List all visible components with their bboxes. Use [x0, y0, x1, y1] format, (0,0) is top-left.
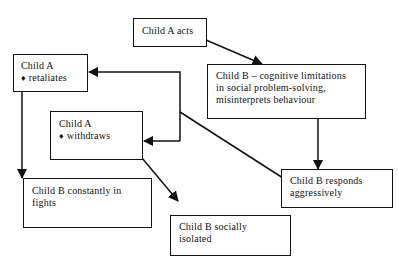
arrow-acts-to-cognitive: [206, 40, 262, 64]
node-item: retaliates: [29, 72, 67, 83]
node-child-a-acts: Child A acts: [133, 18, 207, 47]
node-child-a-withdraws: Child A ♦withdraws: [50, 111, 143, 160]
node-child-b-socially-isolated: Child B socially isolated: [170, 215, 291, 256]
node-text: Child B constantly in: [32, 185, 143, 197]
node-text: isolated: [179, 233, 282, 245]
node-text: Child A acts: [142, 25, 198, 37]
node-title: Child A: [21, 60, 80, 72]
node-text: in social problem-solving,: [216, 82, 357, 94]
node-text: Child B socially: [179, 221, 282, 233]
connector-aggressive-diagonal: [180, 112, 283, 178]
node-child-b-cognitive-limitations: Child B – cognitive limitations in socia…: [207, 64, 366, 119]
node-item: withdraws: [67, 130, 110, 141]
node-text: misinterprets behaviour: [216, 94, 357, 106]
node-text: Child B – cognitive limitations: [216, 70, 357, 82]
diamond-bullet-icon: ♦: [21, 73, 26, 83]
node-text: fights: [32, 197, 143, 209]
node-child-b-responds-aggressively: Child B responds aggressively: [281, 169, 393, 208]
node-text: Child B responds: [290, 175, 384, 187]
node-title: Child A: [59, 118, 134, 130]
node-child-a-retaliates: Child A ♦retaliates: [13, 54, 88, 92]
diamond-bullet-icon: ♦: [59, 131, 64, 141]
node-text: aggressively: [290, 187, 384, 199]
node-child-b-constantly-in-fights: Child B constantly in fights: [23, 178, 152, 228]
